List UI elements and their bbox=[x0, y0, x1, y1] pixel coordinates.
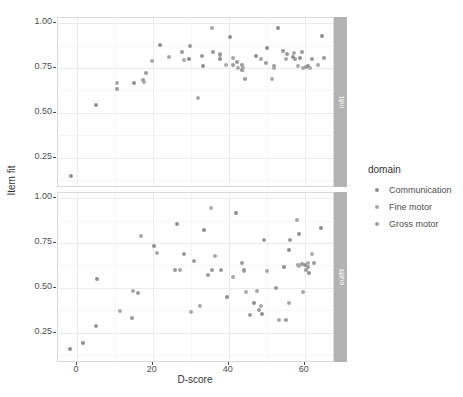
data-point bbox=[319, 226, 323, 230]
legend-key bbox=[368, 198, 385, 215]
x-tick-label: 20 bbox=[137, 364, 167, 374]
data-point bbox=[295, 218, 299, 222]
data-point bbox=[260, 312, 264, 316]
data-point bbox=[94, 324, 98, 328]
grid-line-major-horizontal bbox=[58, 198, 333, 199]
x-tick-mark bbox=[76, 362, 77, 365]
data-point bbox=[182, 58, 186, 62]
grid-line-minor-horizontal bbox=[58, 265, 333, 266]
x-tick-mark bbox=[228, 362, 229, 365]
grid-line-minor-vertical bbox=[191, 193, 192, 361]
data-point bbox=[201, 64, 205, 68]
grid-line-minor-horizontal bbox=[58, 221, 333, 222]
data-point bbox=[322, 56, 326, 60]
data-point bbox=[150, 59, 154, 63]
data-point bbox=[158, 43, 162, 47]
panel-infit bbox=[57, 17, 334, 187]
grid-line-minor-horizontal bbox=[58, 355, 333, 356]
data-point bbox=[115, 87, 119, 91]
y-tick-mark bbox=[53, 67, 56, 68]
strip-label-infit: infit bbox=[334, 17, 347, 187]
data-point bbox=[308, 66, 312, 70]
data-point bbox=[81, 341, 85, 345]
data-point bbox=[265, 269, 269, 273]
grid-line-major-horizontal bbox=[58, 158, 333, 159]
data-point bbox=[284, 318, 288, 322]
data-point bbox=[248, 313, 252, 317]
data-point bbox=[210, 26, 214, 30]
legend-item-fine-motor[interactable]: Fine motor bbox=[368, 198, 463, 215]
data-point bbox=[287, 301, 291, 305]
data-point bbox=[187, 57, 191, 61]
data-point bbox=[231, 275, 235, 279]
data-point bbox=[139, 234, 143, 238]
legend-label: Gross motor bbox=[389, 219, 439, 229]
legend-label: Fine motor bbox=[389, 202, 432, 212]
legend-item-communication[interactable]: Communication bbox=[368, 181, 463, 198]
data-point bbox=[310, 57, 314, 61]
grid-line-major-vertical bbox=[229, 18, 230, 186]
strip-text-infit: infit bbox=[337, 96, 344, 108]
data-point bbox=[277, 318, 281, 322]
data-point bbox=[192, 259, 196, 263]
data-point bbox=[282, 265, 286, 269]
data-point bbox=[219, 268, 223, 272]
data-point bbox=[234, 211, 238, 215]
data-point bbox=[209, 206, 213, 210]
legend-dot-icon bbox=[375, 205, 379, 209]
grid-line-major-horizontal bbox=[58, 23, 333, 24]
grid-line-minor-horizontal bbox=[58, 310, 333, 311]
y-tick-label: 0.50 bbox=[4, 281, 52, 291]
data-point bbox=[265, 46, 269, 50]
x-tick-mark bbox=[304, 362, 305, 365]
data-point bbox=[198, 304, 202, 308]
data-point bbox=[142, 80, 146, 84]
y-tick-label: 0.75 bbox=[4, 236, 52, 246]
x-tick-label: 40 bbox=[213, 364, 243, 374]
data-point bbox=[254, 54, 258, 58]
grid-line-minor-vertical bbox=[267, 18, 268, 186]
legend-key bbox=[368, 181, 385, 198]
grid-line-major-horizontal bbox=[58, 288, 333, 289]
data-point bbox=[144, 71, 148, 75]
data-point bbox=[131, 289, 135, 293]
legend-title: domain bbox=[368, 164, 463, 175]
data-point bbox=[241, 66, 245, 70]
data-point bbox=[243, 77, 247, 81]
data-point bbox=[68, 347, 72, 351]
data-point bbox=[312, 261, 316, 265]
data-point bbox=[130, 316, 134, 320]
grid-line-minor-horizontal bbox=[58, 46, 333, 47]
x-axis-title: D-score bbox=[57, 374, 333, 385]
data-point bbox=[285, 52, 289, 56]
strip-label-outfit: outfit bbox=[334, 192, 347, 362]
data-point bbox=[206, 273, 210, 277]
data-point bbox=[180, 50, 184, 54]
data-point bbox=[132, 81, 136, 85]
data-point bbox=[288, 238, 292, 242]
y-tick-label: 1.00 bbox=[4, 191, 52, 201]
y-tick-label: 0.25 bbox=[4, 151, 52, 161]
data-point bbox=[259, 304, 263, 308]
data-point bbox=[296, 64, 300, 68]
grid-line-major-vertical bbox=[153, 18, 154, 186]
data-point bbox=[298, 56, 302, 60]
data-point bbox=[225, 295, 229, 299]
legend-dot-icon bbox=[375, 188, 379, 192]
grid-line-major-vertical bbox=[229, 193, 230, 361]
y-tick-mark bbox=[53, 242, 56, 243]
data-point bbox=[300, 50, 304, 54]
data-point bbox=[218, 53, 222, 57]
data-point bbox=[252, 301, 256, 305]
data-point bbox=[320, 34, 324, 38]
grid-line-minor-horizontal bbox=[58, 180, 333, 181]
y-tick-mark bbox=[53, 112, 56, 113]
legend-item-gross-motor[interactable]: Gross motor bbox=[368, 215, 463, 232]
legend: domain CommunicationFine motorGross moto… bbox=[368, 164, 463, 232]
data-point bbox=[173, 268, 177, 272]
data-point bbox=[136, 291, 140, 295]
y-tick-label: 0.25 bbox=[4, 326, 52, 336]
grid-line-minor-horizontal bbox=[58, 135, 333, 136]
data-point bbox=[293, 57, 297, 61]
data-point bbox=[210, 268, 214, 272]
